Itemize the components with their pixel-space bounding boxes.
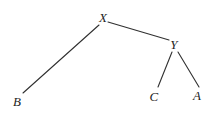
node-label-a: A [193,89,201,102]
edge-x-y [108,22,169,40]
edge-y-a [178,52,199,87]
node-label-x: X [99,11,107,24]
edge-x-b [23,25,99,93]
edge-y-c [158,52,172,87]
node-label-y: Y [170,38,177,51]
tree-diagram-canvas: X Y B C A [0,0,214,113]
node-label-c: C [150,90,159,103]
node-label-b: B [13,95,21,108]
